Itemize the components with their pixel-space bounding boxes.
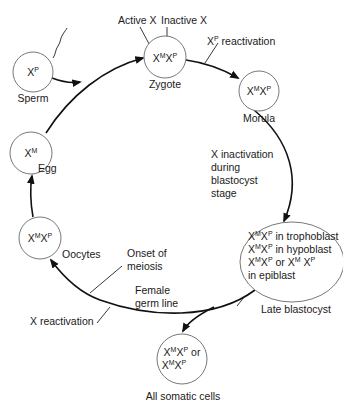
zygote-node: XMXP Zygote	[144, 36, 186, 90]
onset-of-meiosis-label: Onset of meiosis	[127, 247, 167, 272]
sperm-to-zygote-arrow	[52, 78, 80, 83]
zygote-label: Zygote	[149, 78, 181, 90]
active-x-label: Active X	[118, 14, 157, 26]
female-germ-line-label: Female germ line	[135, 284, 178, 309]
x-inactivation-line-1: X inactivation	[211, 148, 274, 160]
sperm-label: Sperm	[18, 92, 49, 104]
x-inactivation-cycle-diagram: XP Sperm XMXP Zygote XMXP Morula XM Egg …	[0, 0, 343, 418]
sperm-tail-icon	[53, 28, 67, 58]
x-reactivation-leader	[97, 307, 110, 323]
x-inactivation-line-4: stage	[211, 187, 237, 199]
oocytes-node: XMXP Oocytes	[19, 217, 101, 260]
oocytes-label: Oocytes	[62, 248, 101, 260]
blastocyst-line-epiblast: in epiblast	[248, 269, 295, 281]
somatic-cells-label: All somatic cells	[146, 390, 221, 402]
egg-to-zygote-arrow	[46, 58, 143, 133]
x-inactivation-line-3: blastocyst	[211, 174, 258, 186]
late-blastocyst-node: XMXP in trophoblast XMXP in hypoblast XM…	[240, 222, 343, 315]
blastocyst-line-hypoblast: XMXP in hypoblast	[248, 243, 332, 255]
somatic-cells-node: XMXP or XMXP All somatic cells	[146, 334, 221, 402]
morula-label: Morula	[243, 112, 275, 124]
oocytes-to-egg-arrow	[31, 176, 33, 217]
x-reactivation-label: X reactivation	[30, 315, 94, 327]
zygote-to-morula-arrow	[186, 60, 238, 78]
x-inactivation-line-2: during	[211, 161, 240, 173]
onset-meiosis-line-2: meiosis	[127, 260, 163, 272]
x-inactivation-label: X inactivation during blastocyst stage	[211, 148, 274, 199]
egg-label: Egg	[38, 162, 57, 174]
sperm-node: XP Sperm	[13, 52, 53, 104]
onset-meiosis-line-1: Onset of	[127, 247, 167, 259]
blastocyst-line-trophoblast: XMXP in trophoblast	[248, 230, 339, 242]
inactive-x-label: Inactive X	[161, 14, 207, 26]
somatic-genotype-line1: XMXP or	[164, 346, 201, 358]
morula-node: XMXP Morula	[239, 71, 279, 124]
xp-reactivation-label: XP reactivation	[207, 35, 275, 47]
egg-node: XM Egg	[10, 132, 57, 174]
female-germ-line-line-2: germ line	[135, 297, 178, 309]
female-germ-line-line-1: Female	[135, 284, 170, 296]
morula-to-blastocyst-arrow	[254, 110, 292, 221]
blastocyst-to-somatic-arrow	[183, 307, 214, 331]
onset-meiosis-leader	[90, 266, 122, 293]
late-blastocyst-label: Late blastocyst	[261, 303, 331, 315]
